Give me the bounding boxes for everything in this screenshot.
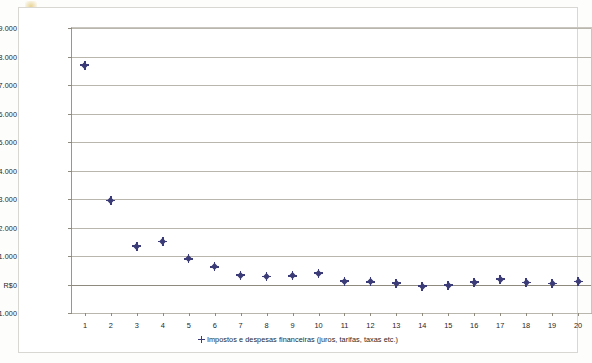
y-axis-tick-mark xyxy=(68,285,72,286)
chart-legend: Impostos e despesas financeiras (juros, … xyxy=(19,335,577,344)
x-axis-tick-label: 6 xyxy=(213,321,217,330)
gridline-y-6000 xyxy=(72,114,591,115)
data-point xyxy=(236,271,245,280)
y-axis-tick-label: -R$1.000 xyxy=(0,309,17,318)
y-axis-tick-mark xyxy=(68,199,72,200)
chart-frame: R$9.000R$8.000R$7.000R$6.000R$5.000R$4.0… xyxy=(18,7,578,353)
x-axis-tick-mark xyxy=(163,313,164,316)
gridline-y-7000 xyxy=(72,85,591,86)
data-point xyxy=(522,278,531,287)
gridline-y--1000 xyxy=(72,313,591,314)
x-axis-tick-mark xyxy=(189,313,190,316)
x-axis-tick-mark xyxy=(241,313,242,316)
y-axis-tick-mark xyxy=(68,57,72,58)
y-axis-tick-mark xyxy=(68,142,72,143)
x-axis-tick-label: 1 xyxy=(83,321,87,330)
x-axis-tick-mark xyxy=(267,313,268,316)
x-axis-tick-label: 18 xyxy=(522,321,530,330)
gridline-y-5000 xyxy=(72,142,591,143)
x-axis-tick-label: 19 xyxy=(548,321,556,330)
data-point xyxy=(132,242,141,251)
x-axis-tick-mark xyxy=(137,313,138,316)
x-axis-tick-mark xyxy=(474,313,475,316)
y-axis-tick-mark xyxy=(68,256,72,257)
x-axis-tick-mark xyxy=(370,313,371,316)
data-point xyxy=(418,282,427,291)
gridline-y-1000 xyxy=(72,256,591,257)
y-axis-tick-mark xyxy=(68,85,72,86)
y-axis-tick-mark xyxy=(68,28,72,29)
data-point xyxy=(158,237,167,246)
x-axis-tick-mark xyxy=(422,313,423,316)
x-axis-tick-label: 8 xyxy=(265,321,269,330)
x-axis-tick-mark xyxy=(344,313,345,316)
y-axis-tick-label: R$9.000 xyxy=(0,24,17,33)
x-axis-tick-label: 14 xyxy=(418,321,426,330)
gridline-y-8000 xyxy=(72,57,591,58)
plot-area: R$9.000R$8.000R$7.000R$6.000R$5.000R$4.0… xyxy=(71,27,592,314)
y-axis-tick-mark xyxy=(68,228,72,229)
x-axis-tick-label: 5 xyxy=(187,321,191,330)
x-axis-tick-label: 7 xyxy=(239,321,243,330)
x-axis-tick-label: 16 xyxy=(470,321,478,330)
x-axis-tick-mark xyxy=(215,313,216,316)
x-axis-tick-label: 10 xyxy=(314,321,322,330)
x-axis-tick-label: 12 xyxy=(366,321,374,330)
y-axis-tick-mark xyxy=(68,171,72,172)
x-axis-tick-mark xyxy=(448,313,449,316)
x-axis-tick-label: 4 xyxy=(161,321,165,330)
data-point xyxy=(210,262,219,271)
x-axis-tick-mark xyxy=(111,313,112,316)
x-axis-tick-mark xyxy=(293,313,294,316)
data-point xyxy=(392,279,401,288)
x-axis-tick-label: 3 xyxy=(135,321,139,330)
data-point xyxy=(80,61,89,70)
x-axis-tick-label: 9 xyxy=(291,321,295,330)
gridline-y-3000 xyxy=(72,199,591,200)
y-axis-tick-label: R$5.000 xyxy=(0,138,17,147)
legend-series-label: Impostos e despesas financeiras (juros, … xyxy=(207,335,398,344)
data-point xyxy=(314,269,323,278)
data-point xyxy=(288,271,297,280)
y-axis-tick-label: R$8.000 xyxy=(0,53,17,62)
y-axis-tick-label: R$0 xyxy=(0,281,17,290)
y-axis-tick-mark xyxy=(68,114,72,115)
y-axis-tick-label: R$3.000 xyxy=(0,195,17,204)
x-axis-tick-mark xyxy=(526,313,527,316)
x-axis-tick-mark xyxy=(319,313,320,316)
x-axis-tick-label: 15 xyxy=(444,321,452,330)
y-axis-tick-label: R$4.000 xyxy=(0,167,17,176)
y-axis-tick-label: R$2.000 xyxy=(0,224,17,233)
gridline-y-0 xyxy=(72,285,591,286)
y-axis-tick-label: R$7.000 xyxy=(0,81,17,90)
y-axis-tick-mark xyxy=(68,313,72,314)
x-axis-tick-mark xyxy=(500,313,501,316)
x-axis-tick-label: 2 xyxy=(109,321,113,330)
data-point xyxy=(496,275,505,284)
legend-diamond-marker-icon xyxy=(198,336,205,343)
y-axis-tick-label: R$6.000 xyxy=(0,110,17,119)
x-axis-tick-label: 20 xyxy=(574,321,582,330)
x-axis-tick-label: 11 xyxy=(341,321,349,330)
x-axis-tick-mark xyxy=(578,313,579,316)
gridline-y-9000 xyxy=(72,28,591,29)
x-axis-tick-label: 17 xyxy=(496,321,504,330)
data-point xyxy=(106,196,115,205)
y-axis-tick-label: R$1.000 xyxy=(0,252,17,261)
data-point xyxy=(262,272,271,281)
x-axis-tick-mark xyxy=(396,313,397,316)
x-axis-tick-label: 13 xyxy=(392,321,400,330)
gridline-y-2000 xyxy=(72,228,591,229)
gridline-y-4000 xyxy=(72,171,591,172)
x-axis-tick-mark xyxy=(85,313,86,316)
x-axis-tick-mark xyxy=(552,313,553,316)
